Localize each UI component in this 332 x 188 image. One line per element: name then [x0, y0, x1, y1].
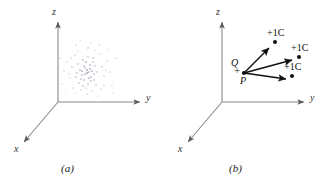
panel-a-axes [24, 22, 140, 142]
axis-label-y-b: y [310, 92, 314, 103]
charge-dot-1 [273, 40, 277, 44]
source-point-label-p: P [240, 75, 246, 86]
point-cloud-a [60, 40, 117, 97]
charge-label-1: +1C [267, 27, 284, 38]
axis-label-x-b: x [178, 143, 182, 154]
axis-label-x-a: x [14, 143, 18, 154]
charge-dot-2 [297, 55, 301, 59]
axis-label-z-b: z [216, 6, 220, 17]
axis-label-z-a: z [52, 6, 56, 17]
panel-caption-a: (a) [61, 162, 74, 174]
panel-a [24, 22, 140, 142]
charge-label-2: +1C [291, 42, 308, 53]
charge-dot-3 [290, 74, 294, 78]
panel-caption-b: (b) [229, 162, 242, 174]
charge-label-3: +1C [284, 61, 301, 72]
axis-x-line-a [24, 102, 58, 142]
field-vector-3 [244, 73, 286, 79]
axis-label-y-a: y [146, 92, 150, 103]
axis-x-line-b [188, 102, 222, 142]
